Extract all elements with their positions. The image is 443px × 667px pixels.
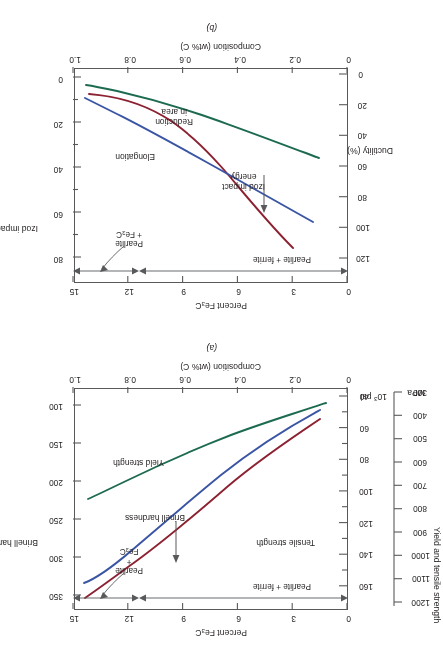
- annot-pearlite-b: Pearlite: [115, 239, 143, 248]
- tick-top-a-9: 9: [181, 615, 186, 623]
- annot-plus-a: +: [127, 557, 132, 566]
- axis-title-composition-b: Composition (wt% C): [180, 42, 261, 51]
- tick-bottom-b-10: 1.0: [69, 56, 81, 64]
- tick-left-psi-a-160: 160: [359, 583, 373, 591]
- tick-bottom-b-0: 0: [346, 56, 351, 64]
- plot-b-svg: [73, 67, 347, 282]
- annot-pearlite-ferrite-a: Pearlite + ferrite: [253, 582, 311, 591]
- tick-right-a-250: 250: [49, 517, 63, 525]
- brinell-leader-arrow-a: [161, 519, 191, 563]
- panel-a: 0 3 6 9 12 15 Percent Fe3C 0 0.2 0.4 0.6…: [0, 334, 443, 667]
- tick-top-b-3: 3: [291, 288, 296, 296]
- tick-right-b-20: 20: [54, 121, 63, 129]
- label-reduction-line2: in area: [161, 107, 187, 117]
- axis-title-percent-fe3c-b: Percent Fe3C: [195, 300, 247, 310]
- ticks-bottom-b: [73, 67, 347, 73]
- axis-title-izod-b: Izod impact energy (ft-lbf): [0, 223, 38, 233]
- tick-left-b-60: 60: [358, 163, 367, 171]
- tick-bottom-a-04: 0.4: [234, 376, 246, 384]
- tick-left-mpa-a-700: 700: [413, 482, 427, 490]
- tick-top-b-15: 15: [70, 288, 79, 296]
- tick-right-a-150: 150: [49, 441, 63, 449]
- tick-left-b-20: 20: [358, 102, 367, 110]
- tick-right-a-350: 350: [49, 593, 63, 601]
- axis-title-percent-fe3c-a: Percent Fe3C: [195, 627, 247, 637]
- annot-pearlite-ferrite-b: Pearlite + ferrite: [253, 255, 311, 264]
- tick-left-mpa-a-1100: 1100: [412, 575, 430, 583]
- panel-a-id: (a): [206, 343, 217, 353]
- tick-top-a-6: 6: [236, 615, 241, 623]
- axis-title-ductility-b: Ductility (%): [347, 146, 393, 155]
- tick-left-b-40: 40: [358, 132, 367, 140]
- tick-right-a-200: 200: [49, 479, 63, 487]
- tick-left-psi-a-100: 100: [359, 488, 373, 496]
- tick-right-b-60: 60: [54, 211, 63, 219]
- axis-title-composition-a: Composition (wt% C): [180, 362, 261, 371]
- tick-top-a-0: 0: [346, 615, 351, 623]
- tick-bottom-b-04: 0.4: [234, 56, 246, 64]
- tick-left-psi-a-120: 120: [359, 520, 373, 528]
- tick-right-a-300: 300: [49, 555, 63, 563]
- label-reduction-line1: Reduction: [155, 117, 193, 127]
- tick-bottom-b-06: 0.6: [179, 56, 191, 64]
- annot-fe3c-a: Fe3C: [120, 547, 139, 556]
- tick-bottom-a-10: 1.0: [69, 376, 81, 384]
- tick-top-b-6: 6: [236, 288, 241, 296]
- tick-right-b-80: 80: [54, 256, 63, 264]
- plot-area-b: [74, 68, 348, 283]
- tick-left-mpa-a-600: 600: [413, 459, 427, 467]
- tick-left-b-100: 100: [356, 224, 370, 232]
- annot-pearlite-a: Pearlite: [115, 566, 143, 575]
- axis-name-yield-tensile-a: Yield and tensile strength: [432, 527, 441, 647]
- tick-left-mpa-a-400: 400: [413, 412, 427, 420]
- label-yield-strength: Yield strength: [113, 457, 164, 467]
- tick-left-mpa-a-1000: 1000: [411, 552, 430, 560]
- tick-left-mpa-a-300: 300: [413, 389, 427, 397]
- mpa-ruler: [393, 388, 405, 610]
- tick-top-b-9: 9: [181, 288, 186, 296]
- annot-pearlite-fe3c-a: Pearlite + Fe3C: [115, 546, 143, 575]
- annot-pearlite-fe3c-b: Pearlite + Fe3C: [115, 229, 143, 249]
- tick-right-b-40: 40: [54, 166, 63, 174]
- panel-b-id: (b): [206, 23, 217, 33]
- ticks-right-a: [73, 405, 81, 595]
- izod-leader-arrow-b: [251, 173, 277, 213]
- tick-left-b-0: 0: [358, 71, 363, 79]
- panel-b: 0 3 6 9 12 15 Percent Fe3C 0 0.2 0.4 0.6…: [0, 0, 443, 333]
- ticks-bottom-a: [73, 387, 347, 393]
- tick-left-mpa-a-500: 500: [413, 435, 427, 443]
- label-tensile-strength: Tensile strength: [256, 537, 315, 547]
- tick-bottom-b-02: 0.2: [289, 56, 301, 64]
- tick-left-psi-a-40: 40: [360, 393, 369, 401]
- tick-left-psi-a-80: 80: [360, 456, 369, 464]
- label-reduction-in-area: Reduction in area: [155, 107, 193, 126]
- tick-bottom-a-02: 0.2: [289, 376, 301, 384]
- tick-right-b-0: 0: [58, 76, 63, 84]
- axis-title-brinell-a: Brinell hardness number: [0, 538, 38, 547]
- tick-left-b-80: 80: [358, 194, 367, 202]
- curve-yield-strength: [88, 403, 326, 499]
- tick-bottom-a-08: 0.8: [124, 376, 136, 384]
- tick-top-b-12: 12: [125, 288, 134, 296]
- tick-left-mpa-a-1200: 1200: [411, 599, 430, 607]
- tick-bottom-a-06: 0.6: [179, 376, 191, 384]
- label-elongation: Elongation: [115, 151, 155, 161]
- tick-left-mpa-a-800: 800: [413, 505, 427, 513]
- plot-a-svg: [73, 387, 347, 609]
- tick-left-psi-a-140: 140: [359, 551, 373, 559]
- ticks-right-b: [73, 77, 81, 257]
- ticks-left-b: [339, 74, 347, 258]
- tick-top-a-12: 12: [125, 615, 134, 623]
- tick-top-b-0: 0: [346, 288, 351, 296]
- tick-left-psi-a-60: 60: [360, 425, 369, 433]
- annot-plus-fe3c-b: + Fe3C: [116, 230, 142, 239]
- tick-top-a-3: 3: [291, 615, 296, 623]
- tick-left-mpa-a-900: 900: [413, 529, 427, 537]
- plot-area-a: [74, 388, 348, 610]
- tick-bottom-a-0: 0: [346, 376, 351, 384]
- tick-bottom-b-08: 0.8: [124, 56, 136, 64]
- tick-right-a-100: 100: [49, 403, 63, 411]
- tick-top-a-15: 15: [70, 615, 79, 623]
- tick-left-b-120: 120: [356, 255, 370, 263]
- ticks-left-psi-a: [339, 396, 347, 586]
